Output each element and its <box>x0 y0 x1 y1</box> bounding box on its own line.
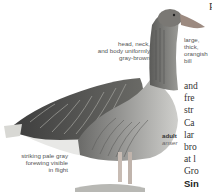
plumage-annotation: head, neck, and body uniformly gray-brow… <box>80 40 150 61</box>
annotation-line: and body uniformly <box>80 47 150 54</box>
body-text-line: lar <box>184 129 199 141</box>
body-text-line: Ca <box>184 117 199 129</box>
body-text-line: bro <box>184 141 199 153</box>
body-text-line: and <box>184 80 199 92</box>
annotation-line: bill <box>184 57 208 64</box>
annotation-line: in flight <box>0 166 68 173</box>
goose-leg-right <box>128 152 132 184</box>
forewing-annotation: striking pale gray forewing visible in f… <box>0 152 68 173</box>
body-text-line: fre <box>184 92 199 104</box>
annotation-line: orangish <box>184 50 208 57</box>
annotation-line: head, neck, <box>80 40 150 47</box>
bill-annotation: large, thick, orangish bill <box>184 36 208 64</box>
goose-tail <box>4 124 22 138</box>
annotation-line: thick, <box>184 43 208 50</box>
goose-leg-left <box>118 152 122 182</box>
body-text-line: str <box>184 104 199 116</box>
goose-bill <box>180 14 205 28</box>
grass-shadow <box>75 184 145 192</box>
annotation-line: gray-brown <box>80 54 150 61</box>
subspecies-label: anser <box>162 139 177 146</box>
body-text-column: and fre str Ca lar bro at l Gro Sin <box>184 80 199 190</box>
age-caption: adult anser <box>162 132 177 146</box>
body-text-line: Gro <box>184 165 199 177</box>
body-text-heading-fragment: P <box>209 1 212 12</box>
goose-head <box>158 9 182 27</box>
annotation-line: large, <box>184 36 208 43</box>
age-label: adult <box>162 132 177 139</box>
goose-eye <box>173 14 175 16</box>
annotation-line: forewing visible <box>0 159 68 166</box>
body-text-bold-line: Sin <box>184 178 199 190</box>
annotation-line: striking pale gray <box>0 152 68 159</box>
body-text-line: at l <box>184 153 199 165</box>
